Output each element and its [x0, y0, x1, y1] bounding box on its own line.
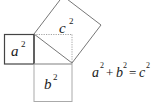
label-a-exp: 2	[21, 39, 26, 49]
square-b: b 2	[34, 64, 72, 102]
label-b-exp: 2	[53, 72, 58, 82]
eq-b-exp: 2	[123, 61, 127, 70]
label-c-base: c	[59, 20, 66, 36]
eq-b: b	[116, 65, 123, 80]
eq-c-exp: 2	[146, 61, 150, 70]
eq-equals: =	[129, 65, 136, 80]
eq-c: c	[139, 65, 146, 80]
label-a-base: a	[11, 43, 19, 59]
label-c-exp: 2	[69, 16, 74, 26]
square-c: c 2	[34, 0, 101, 63]
equation: a 2 + b 2 = c 2	[92, 61, 150, 80]
label-b-base: b	[44, 76, 52, 92]
pythagorean-diagram: a 2 b 2 c 2 a 2 + b 2 = c 2	[0, 0, 160, 106]
eq-plus: +	[106, 65, 113, 80]
square-a: a 2	[5, 35, 35, 65]
eq-a-exp: 2	[100, 61, 104, 70]
eq-a: a	[92, 65, 99, 80]
